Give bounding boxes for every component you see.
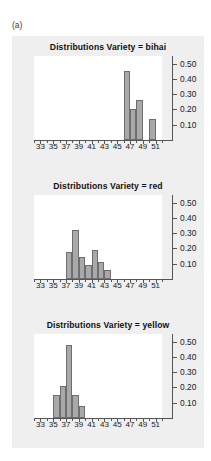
x-tick xyxy=(111,418,112,421)
x-tick xyxy=(162,418,163,421)
x-tick xyxy=(60,418,61,421)
y-tick-label: 0.40 xyxy=(180,213,196,223)
y-tick-label: 0.40 xyxy=(180,352,196,362)
y-tick-label: 0.40 xyxy=(180,74,196,84)
bar-series xyxy=(34,334,162,418)
bar-series xyxy=(34,195,162,279)
y-tick xyxy=(173,125,177,126)
y-tick-label: 0.50 xyxy=(180,337,196,347)
plot-wrap: 0.100.200.300.400.50 xyxy=(34,195,162,279)
x-tick xyxy=(149,279,150,282)
bar xyxy=(79,406,85,418)
x-tick xyxy=(98,140,99,143)
plot-wrap: 0.100.200.300.400.50 xyxy=(34,334,162,418)
x-tick xyxy=(60,140,61,143)
x-tick-label: 41 xyxy=(87,142,96,151)
x-tick xyxy=(34,140,35,143)
y-tick xyxy=(173,248,177,249)
chart-plate: Distributions Variety = bihai 0.100.200.… xyxy=(12,36,204,448)
bar xyxy=(104,270,110,279)
figure-panel: (a) Distributions Variety = bihai 0.100.… xyxy=(0,0,211,461)
y-tick-label: 0.30 xyxy=(180,367,196,377)
x-tick-label: 35 xyxy=(49,281,58,290)
x-tick xyxy=(136,279,137,282)
x-tick-label: 51 xyxy=(151,420,160,429)
x-tick-label: 39 xyxy=(74,281,83,290)
y-tick-label: 0.30 xyxy=(180,89,196,99)
x-tick-label: 33 xyxy=(36,420,45,429)
y-tick xyxy=(173,357,177,358)
bar-series xyxy=(34,56,162,140)
y-tick xyxy=(173,203,177,204)
x-tick-label: 51 xyxy=(151,281,160,290)
x-tick-label: 37 xyxy=(62,142,71,151)
x-tick xyxy=(85,418,86,421)
histogram-bihai: Distributions Variety = bihai 0.100.200.… xyxy=(12,42,204,175)
y-tick-label: 0.20 xyxy=(180,382,196,392)
chart-title: Distributions Variety = red xyxy=(12,181,204,191)
y-tick-label: 0.20 xyxy=(180,104,196,114)
x-tick-label: 33 xyxy=(36,281,45,290)
y-tick-label: 0.10 xyxy=(180,259,196,269)
x-tick-label: 49 xyxy=(138,420,147,429)
bar xyxy=(149,119,155,140)
y-tick-label: 0.10 xyxy=(180,120,196,130)
x-tick xyxy=(111,279,112,282)
x-tick xyxy=(47,418,48,421)
x-tick xyxy=(149,140,150,143)
x-tick-label: 39 xyxy=(74,420,83,429)
x-tick-label: 45 xyxy=(113,420,122,429)
y-tick xyxy=(173,218,177,219)
y-tick xyxy=(173,264,177,265)
y-tick-label: 0.50 xyxy=(180,59,196,69)
y-tick xyxy=(173,372,177,373)
panel-label: (a) xyxy=(12,20,22,30)
x-tick-label: 51 xyxy=(151,142,160,151)
y-tick xyxy=(173,342,177,343)
chart-title: Distributions Variety = bihai xyxy=(12,42,204,52)
x-tick-label: 45 xyxy=(113,142,122,151)
y-axis-line xyxy=(172,334,173,419)
x-tick xyxy=(162,279,163,282)
x-tick xyxy=(72,279,73,282)
x-tick-label: 33 xyxy=(36,142,45,151)
y-tick-label: 0.30 xyxy=(180,228,196,238)
x-tick-label: 41 xyxy=(87,420,96,429)
y-tick-label: 0.50 xyxy=(180,198,196,208)
x-tick xyxy=(34,418,35,421)
y-tick-label: 0.10 xyxy=(180,398,196,408)
x-tick-label: 35 xyxy=(49,142,58,151)
x-tick xyxy=(72,140,73,143)
x-tick-label: 43 xyxy=(100,420,109,429)
x-tick-label: 41 xyxy=(87,281,96,290)
y-axis-line xyxy=(172,56,173,141)
x-tick-label: 49 xyxy=(138,281,147,290)
x-tick xyxy=(85,279,86,282)
x-tick xyxy=(72,418,73,421)
x-tick-label: 45 xyxy=(113,281,122,290)
x-tick xyxy=(98,418,99,421)
x-tick-label: 49 xyxy=(138,142,147,151)
x-tick xyxy=(136,140,137,143)
plot-wrap: 0.100.200.300.400.50 xyxy=(34,56,162,140)
x-tick-label: 39 xyxy=(74,142,83,151)
x-tick-label: 37 xyxy=(62,420,71,429)
y-tick xyxy=(173,79,177,80)
x-tick xyxy=(124,418,125,421)
bar xyxy=(136,100,142,140)
x-tick-label: 35 xyxy=(49,420,58,429)
x-tick xyxy=(47,279,48,282)
y-axis-line xyxy=(172,195,173,280)
histogram-yellow: Distributions Variety = yellow 0.100.200… xyxy=(12,320,204,453)
x-tick-label: 37 xyxy=(62,281,71,290)
y-tick xyxy=(173,387,177,388)
x-tick xyxy=(98,279,99,282)
y-tick xyxy=(173,94,177,95)
x-tick xyxy=(60,279,61,282)
x-tick xyxy=(149,418,150,421)
x-tick-label: 47 xyxy=(126,142,135,151)
histogram-red: Distributions Variety = red 0.100.200.30… xyxy=(12,181,204,314)
x-tick xyxy=(162,140,163,143)
x-tick xyxy=(111,140,112,143)
y-tick-label: 0.20 xyxy=(180,243,196,253)
